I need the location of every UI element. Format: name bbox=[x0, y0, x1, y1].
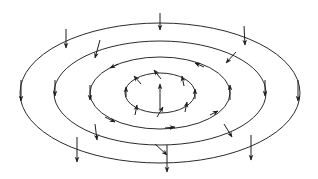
arrow-icon bbox=[110, 64, 118, 68]
arrow-icon bbox=[226, 52, 236, 63]
vector-field-diagram bbox=[0, 0, 318, 179]
arrow-icon bbox=[154, 70, 161, 79]
arrow-icon bbox=[224, 124, 232, 137]
arrow-icon bbox=[244, 26, 245, 45]
arrow-icon bbox=[165, 127, 175, 128]
field-vectors bbox=[21, 13, 298, 172]
arrow-icon bbox=[95, 124, 97, 140]
arrow-icon bbox=[135, 105, 137, 115]
arrow-icon bbox=[95, 40, 100, 58]
arrow-icon bbox=[155, 144, 167, 155]
